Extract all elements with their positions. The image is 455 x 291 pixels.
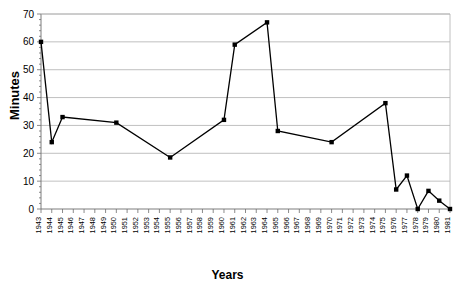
- x-tick-label: 1976: [389, 217, 398, 233]
- y-tick-label: 30: [23, 120, 35, 131]
- data-point-marker: [233, 42, 237, 46]
- line-chart: Minutes Years 01020304050607019431944194…: [0, 0, 455, 291]
- x-tick-label: 1951: [120, 217, 129, 233]
- x-tick-label: 1946: [66, 217, 75, 233]
- x-tick-label: 1970: [325, 217, 334, 233]
- data-point-marker: [394, 187, 398, 191]
- x-tick-label: 1975: [378, 217, 387, 233]
- data-point-marker: [437, 198, 441, 202]
- y-tick-label: 0: [28, 204, 34, 215]
- x-tick-label: 1968: [303, 217, 312, 233]
- x-tick-label: 1963: [249, 217, 258, 233]
- data-point-marker: [50, 140, 54, 144]
- x-tick-label: 1961: [228, 217, 237, 233]
- y-tick-label: 40: [23, 92, 35, 103]
- x-tick-label: 1971: [335, 217, 344, 233]
- data-point-marker: [426, 189, 430, 193]
- x-tick-label: 1943: [34, 217, 43, 233]
- x-tick-label: 1967: [292, 217, 301, 233]
- data-point-marker: [39, 40, 43, 44]
- data-point-marker: [222, 118, 226, 122]
- x-tick-label: 1949: [99, 217, 108, 233]
- x-tick-label: 1944: [45, 217, 54, 233]
- x-tick-label: 1964: [260, 217, 269, 233]
- y-tick-label: 10: [23, 176, 35, 187]
- x-tick-label: 1965: [271, 217, 280, 233]
- x-tick-label: 1980: [432, 217, 441, 233]
- x-tick-label: 1954: [152, 217, 161, 233]
- x-tick-label: 1952: [131, 217, 140, 233]
- x-tick-label: 1969: [314, 217, 323, 233]
- x-tick-label: 1979: [421, 217, 430, 233]
- x-tick-label: 1945: [56, 217, 65, 233]
- x-tick-label: 1972: [346, 217, 355, 233]
- x-tick-label: 1974: [368, 217, 377, 233]
- x-tick-label: 1955: [163, 217, 172, 233]
- data-point-marker: [168, 155, 172, 159]
- y-tick-label: 20: [23, 148, 35, 159]
- x-tick-label: 1957: [185, 217, 194, 233]
- data-point-marker: [114, 120, 118, 124]
- x-tick-label: 1962: [239, 217, 248, 233]
- x-tick-label: 1953: [142, 217, 151, 233]
- x-tick-label: 1960: [217, 217, 226, 233]
- y-tick-label: 60: [23, 36, 35, 47]
- data-point-marker: [383, 101, 387, 105]
- data-point-marker: [448, 207, 452, 211]
- y-tick-label: 50: [23, 64, 35, 75]
- x-tick-label: 1956: [174, 217, 183, 233]
- data-point-marker: [265, 20, 269, 24]
- data-point-marker: [416, 207, 420, 211]
- data-point-marker: [329, 140, 333, 144]
- x-tick-label: 1977: [400, 217, 409, 233]
- x-tick-label: 1973: [357, 217, 366, 233]
- x-tick-label: 1947: [77, 217, 86, 233]
- y-tick-label: 70: [23, 9, 35, 20]
- data-point-marker: [60, 115, 64, 119]
- x-tick-label: 1978: [411, 217, 420, 233]
- x-tick-label: 1981: [443, 217, 452, 233]
- data-point-marker: [405, 173, 409, 177]
- x-tick-label: 1959: [206, 217, 215, 233]
- x-tick-label: 1958: [195, 217, 204, 233]
- x-tick-label: 1950: [109, 217, 118, 233]
- x-tick-label: 1966: [282, 217, 291, 233]
- plot-area: 0102030405060701943194419451946194719481…: [0, 0, 455, 291]
- x-tick-label: 1948: [88, 217, 97, 233]
- data-point-marker: [276, 129, 280, 133]
